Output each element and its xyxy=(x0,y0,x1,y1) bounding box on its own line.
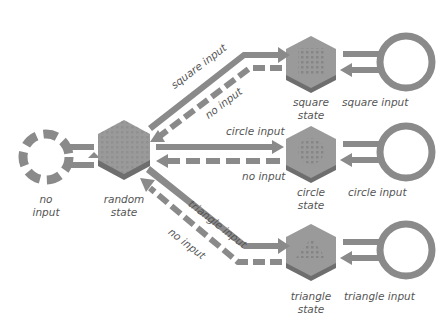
square-state-label-line2: state xyxy=(288,109,334,122)
triangle-input-loop xyxy=(340,224,432,276)
square-input-loop xyxy=(340,36,432,88)
edge-from-circle-dashed xyxy=(156,154,280,168)
triangle-state-label-line2: state xyxy=(284,303,338,316)
circle-state-label: circle state xyxy=(288,186,334,212)
circle-input-loop-label: circle input xyxy=(348,186,407,199)
no-input-label: no input xyxy=(28,193,64,219)
triangle-state-label: triangle state xyxy=(284,290,338,316)
square-state-label-line1: square xyxy=(288,96,334,109)
circle-state-hexagon xyxy=(286,126,336,183)
state-diagram: no input random state square state circl… xyxy=(0,0,443,328)
no-input-dashed-ring xyxy=(23,134,69,180)
random-state-hexagon xyxy=(98,120,150,180)
triangle-state-label-line1: triangle xyxy=(284,290,338,303)
square-state-label: square state xyxy=(288,96,334,122)
triangle-state-hexagon xyxy=(286,224,336,281)
random-state-label-line2: state xyxy=(100,206,148,219)
random-state-label-line1: random xyxy=(100,193,148,206)
no-input-label-line1: no xyxy=(28,193,64,206)
triangle-input-loop-label: triangle input xyxy=(344,290,415,303)
random-state-label: random state xyxy=(100,193,148,219)
edge-to-circle-label: circle input xyxy=(226,125,285,138)
no-input-label-line2: input xyxy=(28,206,64,219)
edge-from-circle-label: no input xyxy=(242,170,285,183)
circle-state-label-line1: circle xyxy=(288,186,334,199)
square-state-hexagon xyxy=(286,36,336,93)
circle-input-loop xyxy=(340,126,432,178)
circle-state-label-line2: state xyxy=(288,199,334,212)
no-input-arrow xyxy=(68,144,100,168)
edge-to-circle-solid xyxy=(156,140,284,154)
square-input-loop-label: square input xyxy=(342,96,408,109)
